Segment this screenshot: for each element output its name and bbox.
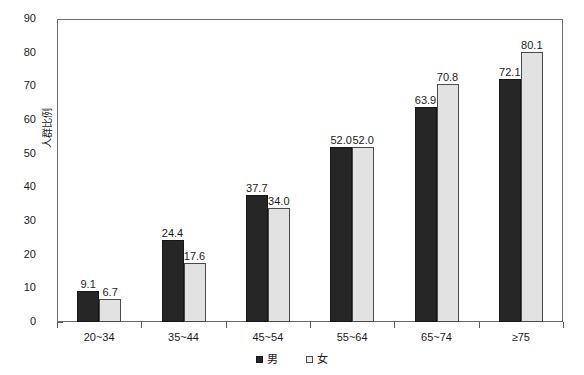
bar-chart: 人群比例 0102030405060708090 9.16.724.417.63…: [0, 0, 584, 375]
legend-item-male: 男: [256, 353, 278, 366]
bar-value-label: 17.6: [175, 250, 215, 262]
bar-male-65~74: [415, 107, 437, 322]
legend-swatch-icon: [306, 356, 313, 363]
bar-value-label: 80.1: [512, 39, 552, 51]
x-axis-tick-mark: [310, 322, 311, 328]
bar-female-20~34: [99, 299, 121, 322]
legend-item-female: 女: [306, 353, 328, 366]
bar-male-45~54: [246, 195, 268, 322]
bar-female-55~64: [352, 147, 374, 322]
chart-legend: 男女: [0, 352, 584, 366]
x-axis-category-label: ≥75: [479, 331, 563, 343]
bar-value-label: 37.7: [237, 182, 277, 194]
x-axis-tick-mark: [57, 322, 58, 328]
bar-value-label: 6.7: [90, 286, 130, 298]
bar-male-55~64: [330, 147, 352, 322]
legend-swatch-icon: [256, 356, 263, 363]
x-axis-tick-mark: [394, 322, 395, 328]
x-axis-tick-mark: [479, 322, 480, 328]
x-axis-tick-mark: [226, 322, 227, 328]
legend-label: 女: [317, 353, 328, 365]
bar-female-45~54: [268, 208, 290, 322]
legend-label: 男: [267, 353, 278, 365]
bar-value-label: 52.0: [343, 134, 383, 146]
x-axis-tick-mark: [141, 322, 142, 328]
bar-female-65~74: [437, 84, 459, 322]
bar-female-35~44: [184, 263, 206, 322]
x-axis-category-label: 35~44: [142, 331, 226, 343]
bar-value-label: 34.0: [259, 195, 299, 207]
bar-male-≥75: [499, 79, 521, 322]
x-axis-category-label: 55~64: [310, 331, 394, 343]
bar-female-≥75: [521, 52, 543, 322]
bar-value-label: 24.4: [153, 227, 193, 239]
bars-layer: 9.16.724.417.637.734.052.052.063.970.872…: [0, 0, 584, 375]
x-axis-category-label: 45~54: [226, 331, 310, 343]
x-axis-category-label: 65~74: [395, 331, 479, 343]
x-axis-category-label: 20~34: [57, 331, 141, 343]
bar-value-label: 70.8: [428, 71, 468, 83]
x-axis-tick-mark: [563, 322, 564, 328]
